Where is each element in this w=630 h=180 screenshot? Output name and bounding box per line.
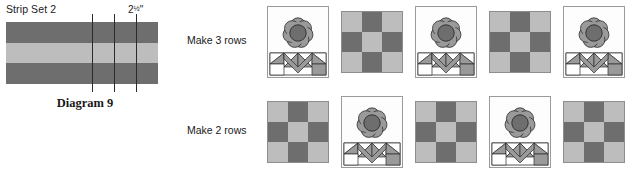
leaf-triangle bbox=[270, 64, 284, 75]
checker-cell-light bbox=[456, 142, 476, 162]
row-instruction-label: Make 2 rows bbox=[187, 124, 265, 136]
flower-center bbox=[586, 25, 602, 41]
checker-cell-dark bbox=[564, 122, 584, 142]
checker-cell-dark bbox=[530, 32, 550, 52]
leaf-triangle bbox=[386, 154, 400, 165]
cut-line-3 bbox=[136, 14, 137, 92]
checkerboard-grid bbox=[415, 101, 477, 163]
checker-cell-light bbox=[288, 122, 308, 142]
checker-cell-dark bbox=[436, 142, 456, 162]
flower-block bbox=[489, 96, 551, 168]
checkerboard-block bbox=[563, 96, 625, 168]
flower-block bbox=[341, 96, 403, 168]
checker-cell-dark bbox=[362, 12, 382, 32]
strip-set-panel: Strip Set 2 2½" Diagram 9 bbox=[0, 0, 185, 180]
flower-center bbox=[364, 115, 380, 131]
checker-cell-light bbox=[342, 12, 362, 32]
cut-line-2 bbox=[114, 14, 115, 92]
diagram-caption: Diagram 9 bbox=[0, 96, 170, 111]
checker-cell-dark bbox=[604, 122, 624, 142]
checker-cell-light bbox=[382, 52, 402, 72]
checker-cell-dark bbox=[416, 122, 436, 142]
checker-cell-dark bbox=[268, 122, 288, 142]
checker-cell-dark bbox=[510, 52, 530, 72]
checker-cell-dark bbox=[456, 122, 476, 142]
checker-cell-light bbox=[604, 102, 624, 122]
flower-block-art bbox=[416, 7, 476, 77]
checker-cell-light bbox=[564, 142, 584, 162]
flower-block-art bbox=[490, 97, 550, 167]
checker-cell-dark bbox=[584, 142, 604, 162]
checker-cell-light bbox=[584, 122, 604, 142]
checkerboard-block bbox=[267, 96, 329, 168]
checker-cell-light bbox=[564, 102, 584, 122]
checker-cell-dark bbox=[342, 32, 362, 52]
checker-cell-light bbox=[530, 12, 550, 32]
checker-cell-light bbox=[416, 102, 436, 122]
flower-block bbox=[267, 6, 329, 78]
checker-cell-light bbox=[530, 52, 550, 72]
cut-line-1 bbox=[92, 14, 93, 92]
leaf-triangle bbox=[312, 64, 326, 75]
checker-cell-dark bbox=[436, 102, 456, 122]
leaf-triangle bbox=[344, 154, 358, 165]
checker-cell-dark bbox=[382, 32, 402, 52]
checker-cell-dark bbox=[288, 102, 308, 122]
checker-cell-light bbox=[490, 12, 510, 32]
strip-set-figure bbox=[6, 22, 158, 84]
checkerboard-grid bbox=[489, 11, 551, 73]
leaf-triangle bbox=[418, 64, 432, 75]
checker-cell-dark bbox=[510, 12, 530, 32]
checker-cell-light bbox=[436, 122, 456, 142]
flower-block bbox=[415, 6, 477, 78]
checker-cell-dark bbox=[584, 102, 604, 122]
row-instruction-label: Make 3 rows bbox=[187, 34, 265, 46]
block-strip bbox=[267, 96, 625, 168]
leaf-triangle bbox=[534, 154, 548, 165]
checkerboard-grid bbox=[267, 101, 329, 163]
checker-cell-light bbox=[490, 52, 510, 72]
checkerboard-grid bbox=[341, 11, 403, 73]
checker-cell-dark bbox=[308, 122, 328, 142]
measurement-unit: " bbox=[140, 4, 144, 15]
flower-block-art bbox=[564, 7, 624, 77]
block-strip bbox=[267, 6, 625, 78]
checkerboard-block bbox=[341, 6, 403, 78]
flower-center bbox=[512, 115, 528, 131]
checker-cell-light bbox=[268, 102, 288, 122]
assembly-panel: Make 3 rows Make 2 rows bbox=[185, 0, 630, 180]
checker-cell-dark bbox=[490, 32, 510, 52]
leaf-triangle bbox=[608, 64, 622, 75]
leaf-triangle bbox=[460, 64, 474, 75]
strip-set-title: Strip Set 2 bbox=[6, 3, 56, 15]
checker-cell-light bbox=[456, 102, 476, 122]
flower-block bbox=[563, 6, 625, 78]
checkerboard-block bbox=[489, 6, 551, 78]
checker-cell-light bbox=[308, 102, 328, 122]
checker-cell-dark bbox=[362, 52, 382, 72]
checker-cell-light bbox=[362, 32, 382, 52]
flower-center bbox=[290, 25, 306, 41]
flower-center bbox=[438, 25, 454, 41]
checker-cell-light bbox=[342, 52, 362, 72]
checkerboard-grid bbox=[563, 101, 625, 163]
leaf-triangle bbox=[492, 154, 506, 165]
leaf-triangle bbox=[566, 64, 580, 75]
checker-cell-light bbox=[268, 142, 288, 162]
checkerboard-block bbox=[415, 96, 477, 168]
checker-cell-dark bbox=[288, 142, 308, 162]
flower-block-art bbox=[342, 97, 402, 167]
checker-cell-light bbox=[416, 142, 436, 162]
checker-cell-light bbox=[308, 142, 328, 162]
assembly-row-group: Make 3 rows bbox=[185, 6, 630, 86]
assembly-row-group: Make 2 rows bbox=[185, 96, 630, 176]
checker-cell-light bbox=[604, 142, 624, 162]
checker-cell-light bbox=[510, 32, 530, 52]
flower-block-art bbox=[268, 7, 328, 77]
checker-cell-light bbox=[382, 12, 402, 32]
